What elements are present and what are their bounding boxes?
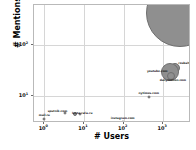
x-tick-label-2: 102 — [118, 124, 127, 131]
data-point-label: youtube.com — [147, 70, 168, 73]
y-tick-mark-0 — [31, 95, 33, 96]
y-axis-label: # Mentions — [13, 0, 22, 68]
x-tick-label-1: 101 — [78, 124, 87, 131]
data-point-label: ria.ru — [84, 113, 93, 116]
gridline-vertical-2 — [124, 5, 125, 121]
data-point-label: nytimes.com — [139, 93, 159, 96]
data-point-label: lenta.ru — [72, 112, 85, 115]
x-tick-label-3: 103 — [158, 124, 167, 131]
data-point-bubble[interactable] — [146, 4, 190, 47]
data-point-label: mail.ru — [39, 114, 50, 117]
chart-figure: vk.comrosbalt.comyoutube.comdailymotion.… — [0, 0, 196, 150]
x-tick-label-0: 100 — [39, 124, 48, 131]
data-point-label: sputnik.com — [48, 111, 67, 114]
gridline-horizontal-1 — [34, 45, 189, 46]
data-point-label: dailymotion.com — [160, 79, 186, 82]
data-point-label: instagram.com — [111, 117, 135, 120]
gridline-vertical-1 — [84, 5, 85, 121]
data-point-label: rosbalt.com — [178, 62, 190, 65]
y-tick-label-0: 101 — [19, 92, 28, 99]
gridline-horizontal-0 — [34, 96, 189, 97]
x-tick-mark-2 — [123, 122, 124, 124]
x-tick-mark-3 — [162, 122, 163, 124]
y-tick-label-1: 102 — [19, 41, 28, 48]
x-tick-mark-0 — [43, 122, 44, 124]
x-tick-mark-1 — [83, 122, 84, 124]
x-axis-label: # Users — [33, 132, 190, 141]
gridline-vertical-0 — [44, 5, 45, 121]
plot-area: vk.comrosbalt.comyoutube.comdailymotion.… — [33, 4, 190, 122]
data-point-bubble[interactable] — [43, 117, 46, 120]
data-point-bubble[interactable] — [147, 96, 150, 99]
y-tick-mark-1 — [31, 44, 33, 45]
